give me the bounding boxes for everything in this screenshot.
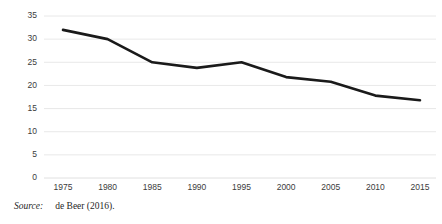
x-tick-label: 1995: [232, 182, 251, 192]
y-tick-label: 30: [28, 33, 38, 43]
y-tick-label: 25: [28, 57, 38, 67]
x-tick-label: 1990: [187, 182, 206, 192]
x-tick-label: 1975: [54, 182, 73, 192]
line-chart: 05101520253035 1975198019851990199520002…: [0, 0, 442, 196]
x-tick-label: 2000: [277, 182, 296, 192]
y-tick-label: 5: [32, 149, 37, 159]
y-tick-label: 10: [28, 126, 38, 136]
y-axis-tick-labels: 05101520253035: [28, 10, 38, 182]
source-label: Source:: [14, 201, 43, 211]
y-tick-label: 0: [32, 172, 37, 182]
y-tick-label: 20: [28, 80, 38, 90]
source-text: de Beer (2016).: [55, 201, 114, 211]
x-tick-label: 2015: [411, 182, 430, 192]
x-tick-label: 2010: [366, 182, 385, 192]
data-series-line: [63, 30, 420, 100]
x-tick-label: 1985: [143, 182, 162, 192]
y-tick-label: 15: [28, 103, 38, 113]
figure-container: 05101520253035 1975198019851990199520002…: [0, 0, 442, 224]
source-note: Source:de Beer (2016).: [14, 201, 115, 211]
y-tick-label: 35: [28, 10, 38, 20]
x-tick-label: 2005: [321, 182, 340, 192]
x-tick-label: 1980: [98, 182, 117, 192]
chart-canvas: 05101520253035 1975198019851990199520002…: [0, 0, 442, 196]
x-axis-tick-labels: 197519801985199019952000200520102015: [54, 182, 430, 192]
